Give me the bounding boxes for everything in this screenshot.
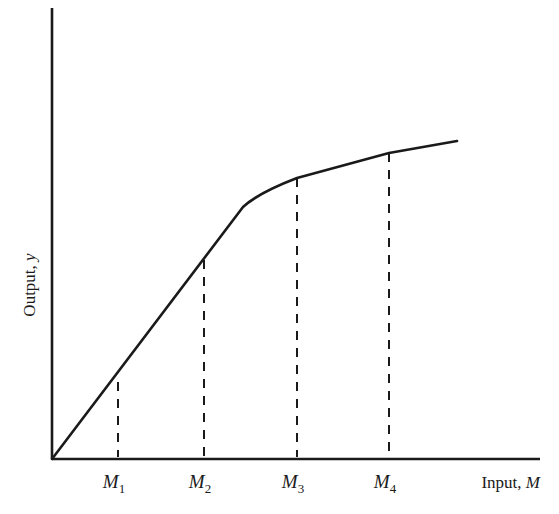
y-axis-label-var: y xyxy=(20,253,39,263)
x-tick-labels: M1M2M3M4 xyxy=(102,471,397,496)
x-axis-label: Input, M xyxy=(481,473,540,492)
tick-label-m3: M3 xyxy=(281,471,304,496)
production-function-chart: M1M2M3M4 Input, M Output, y xyxy=(0,0,559,514)
y-axis-label: Output, y xyxy=(20,253,39,317)
production-curve xyxy=(52,141,457,459)
x-axis-label-var: M xyxy=(525,473,541,492)
tick-label-m4: M4 xyxy=(373,471,397,496)
y-axis-label-text: Output, xyxy=(20,261,39,317)
x-axis-label-text: Input, xyxy=(481,473,525,492)
tick-label-m2: M2 xyxy=(188,471,211,496)
tick-label-m1: M1 xyxy=(102,471,125,496)
